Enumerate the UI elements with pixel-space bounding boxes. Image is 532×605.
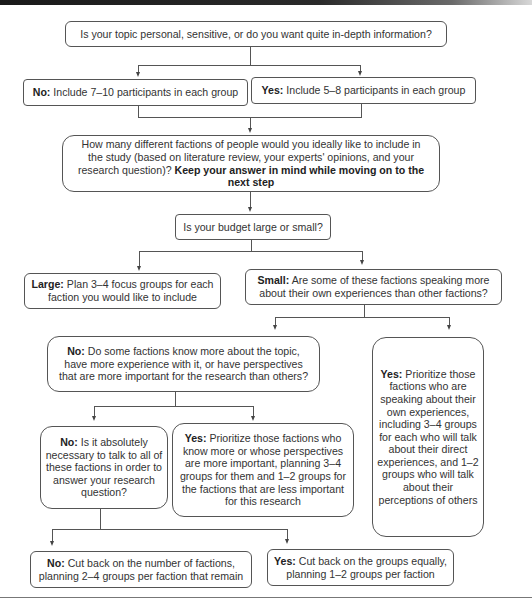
knowledge-question-box: No: Do some factions know more about the… xyxy=(47,336,320,392)
connector xyxy=(253,406,254,416)
question-text: Is your topic personal, sensitive, or do… xyxy=(80,28,432,41)
answer-body: Include 7–10 participants in each group xyxy=(50,86,238,98)
connector xyxy=(287,529,288,539)
connector xyxy=(250,47,251,65)
answer-text: Yes: Prioritize those factions who know … xyxy=(179,432,347,508)
connector xyxy=(250,192,251,207)
answer-body: Cut back on the number of factions, plan… xyxy=(39,557,243,582)
answer-label: No: xyxy=(60,436,78,448)
connector xyxy=(364,305,365,317)
answer-body: Prioritize those factions who are speaki… xyxy=(377,368,478,506)
arrow-down-icon xyxy=(251,416,255,421)
question-text: Is your budget large or small? xyxy=(183,221,323,234)
answer-label: No: xyxy=(33,86,51,98)
connector xyxy=(251,240,252,251)
arrow-down-icon xyxy=(248,207,252,212)
question-text: No: Do some factions know more about the… xyxy=(58,345,309,383)
answer-text: Yes: Prioritize those factions who are s… xyxy=(377,368,479,507)
arrow-down-icon xyxy=(248,128,252,133)
question-emphasis: Keep your answer in mind while moving on… xyxy=(175,164,425,189)
answer-body: Include 5–8 participants in each group xyxy=(283,84,465,96)
answer-label: Small: xyxy=(257,274,289,286)
arrow-down-icon xyxy=(137,266,141,271)
participants-yes-box: Yes: Include 5–8 participants in each gr… xyxy=(251,77,476,104)
arrow-down-icon xyxy=(358,71,362,76)
answer-text: Yes: Include 5–8 participants in each gr… xyxy=(262,84,466,97)
necessary-question-box: No: Is it absolutely necessary to talk t… xyxy=(40,426,168,509)
question-text: Small: Are some of these factions speaki… xyxy=(252,274,495,299)
answer-text: No: Cut back on the number of factions, … xyxy=(37,557,245,582)
participants-no-box: No: Include 7–10 participants in each gr… xyxy=(23,79,248,106)
arrow-down-icon xyxy=(360,260,364,265)
connector xyxy=(275,317,276,325)
arrow-down-icon xyxy=(273,325,277,330)
answer-body: Cut back on the groups equally, planning… xyxy=(286,555,447,580)
connector xyxy=(138,65,361,66)
arrow-down-icon xyxy=(285,539,289,544)
connector xyxy=(138,106,139,117)
answer-label: Yes: xyxy=(185,432,207,444)
question-text: How many different factions of people wo… xyxy=(73,138,429,188)
answer-body: Plan 3–4 focus groups for each faction y… xyxy=(48,278,213,303)
answer-text: No: Include 7–10 participants in each gr… xyxy=(33,86,239,99)
arrow-down-icon xyxy=(92,416,96,421)
answer-text: Large: Plan 3–4 focus groups for each fa… xyxy=(31,278,214,303)
budget-large-box: Large: Plan 3–4 focus groups for each fa… xyxy=(24,273,221,309)
cut-groups-equally-box: Yes: Cut back on the groups equally, pla… xyxy=(267,549,454,586)
cut-factions-box: No: Cut back on the number of factions, … xyxy=(30,551,252,588)
prioritize-own-experience-box: Yes: Prioritize those factions who are s… xyxy=(372,337,484,537)
answer-label: No: xyxy=(67,345,85,357)
answer-body: Do some factions know more about the top… xyxy=(59,345,308,382)
prioritize-knowledge-box: Yes: Prioritize those factions who know … xyxy=(172,423,354,517)
answer-label: Yes: xyxy=(381,368,403,380)
answer-body: Are some of these factions speaking more… xyxy=(259,274,489,299)
connector xyxy=(52,529,288,530)
budget-question: Is your budget large or small? xyxy=(175,214,331,240)
answer-text: Yes: Cut back on the groups equally, pla… xyxy=(274,555,447,580)
arrow-down-icon xyxy=(136,72,140,77)
connector xyxy=(275,317,450,318)
connector xyxy=(100,509,101,530)
answer-label: Yes: xyxy=(274,555,296,567)
question-text: No: Is it absolutely necessary to talk t… xyxy=(45,436,163,499)
answer-label: No: xyxy=(47,557,65,569)
connector xyxy=(139,251,140,266)
connector xyxy=(94,406,95,416)
bottom-divider xyxy=(0,597,532,598)
connector xyxy=(361,104,362,117)
arrow-down-icon xyxy=(50,541,54,546)
connector xyxy=(94,406,254,407)
connector xyxy=(362,251,363,260)
factions-question: How many different factions of people wo… xyxy=(62,135,440,192)
budget-small-box: Small: Are some of these factions speaki… xyxy=(245,269,502,305)
connector xyxy=(175,392,176,406)
topic-sensitivity-question: Is your topic personal, sensitive, or do… xyxy=(65,21,447,47)
top-border-band xyxy=(0,0,532,5)
connector xyxy=(449,317,450,325)
answer-label: Yes: xyxy=(262,84,284,96)
connector xyxy=(139,251,363,252)
answer-label: Large: xyxy=(32,278,64,290)
connector xyxy=(52,529,53,541)
arrow-down-icon xyxy=(447,325,451,330)
